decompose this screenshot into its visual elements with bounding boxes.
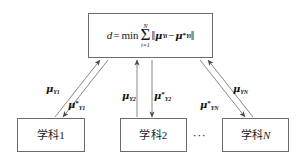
edge-label-mu-yn-star: μ*YN (200, 95, 218, 111)
formula-min: min (120, 30, 139, 41)
edge-label-mu-y2: μY2 (122, 86, 136, 102)
norm-close-bars: ‖ (191, 29, 195, 42)
edge-label-mu-y2-sub: Y2 (129, 96, 135, 102)
discipline-node-n: 学科N (222, 118, 289, 152)
edge-label-mu-yn-star-subidx: N (214, 105, 218, 111)
sigma-glyph: Σ (141, 28, 151, 42)
edge-label-mu-y1-star: μ*Y1 (68, 95, 85, 111)
edge-label-mu-yn: μYN (233, 79, 248, 95)
edge-label-mu-y2-subidx: 2 (133, 96, 136, 102)
formula-minus: − (167, 30, 175, 41)
discipline-node-2-label: 学科2 (139, 130, 167, 141)
mu-symbol-left: μ (155, 31, 162, 41)
discipline-node-2: 学科2 (120, 118, 187, 152)
edge-label-mu-y2-star: μ*Y2 (154, 86, 171, 102)
summation-symbol: N Σ i=1 (141, 23, 151, 47)
discipline-node-n-index: N (263, 129, 271, 141)
discipline-node-1: 学科1 (17, 118, 85, 152)
ellipsis-between-nodes: ··· (193, 129, 207, 142)
formula-equals: = (112, 30, 120, 41)
objective-function-formula: d = min N Σ i=1 ‖ μ Yi − μ * Yi ‖ (107, 23, 195, 47)
discipline-node-1-text: 学科 (37, 129, 59, 142)
edge-label-mu-yn-sub: YN (240, 89, 248, 95)
edge-label-mu-y1-subidx: 1 (57, 89, 60, 95)
edge-label-mu-y1: μY1 (46, 79, 60, 95)
discipline-node-2-text: 学科 (139, 129, 161, 142)
edge-label-mu-y1-star-subidx: 1 (82, 105, 85, 111)
edge-label-mu-y1-star-sub: Y1 (79, 105, 85, 111)
edge-label-mu-y2-star-subidx: 2 (168, 96, 171, 102)
edge-label-mu-y2-star-sub: Y2 (165, 96, 171, 102)
discipline-node-n-text: 学科 (241, 129, 263, 142)
objective-function-box: d = min N Σ i=1 ‖ μ Yi − μ * Yi ‖ (88, 13, 213, 58)
diagram-canvas: d = min N Σ i=1 ‖ μ Yi − μ * Yi ‖ 学科1 学科… (0, 0, 306, 161)
edge-label-mu-yn-subidx: N (244, 89, 248, 95)
discipline-node-1-label: 学科1 (37, 130, 65, 141)
mu-symbol-right: μ (175, 31, 182, 41)
summation-lower-limit: i=1 (141, 42, 150, 48)
discipline-node-1-index: 1 (59, 129, 65, 141)
edge-label-mu-y1-sub: Y1 (53, 89, 59, 95)
edge-label-mu-yn-star-sub: YN (211, 105, 219, 111)
discipline-node-2-index: 2 (162, 129, 168, 141)
discipline-node-n-label: 学科N (241, 130, 271, 141)
